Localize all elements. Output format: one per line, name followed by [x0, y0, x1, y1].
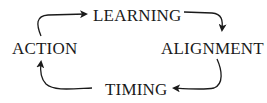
- node-action: ACTION: [12, 40, 77, 57]
- arrow-timing-to-action: [41, 62, 92, 89]
- node-learning: LEARNING: [93, 7, 181, 24]
- arrow-learning-to-alignment: [184, 12, 222, 30]
- node-timing: TIMING: [105, 81, 168, 98]
- cycle-diagram: LEARNING ALIGNMENT TIMING ACTION: [0, 0, 267, 103]
- node-alignment: ALIGNMENT: [161, 40, 264, 57]
- arrow-alignment-to-timing: [174, 59, 221, 89]
- arrow-action-to-learning: [38, 14, 86, 36]
